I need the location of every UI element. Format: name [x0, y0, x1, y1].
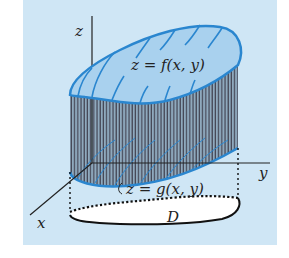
y-axis-label: y [258, 164, 268, 182]
domain-label: D [166, 208, 179, 226]
figure: z y x z = f(x, y) z = g(x, y) D [0, 0, 289, 258]
z-axis-label: z [74, 22, 83, 40]
solid-region-diagram: z y x z = f(x, y) z = g(x, y) D [0, 0, 289, 258]
x-axis-label: x [37, 214, 46, 232]
bottom-surface-label: z = g(x, y) [125, 180, 204, 198]
top-surface-label: z = f(x, y) [130, 56, 205, 74]
